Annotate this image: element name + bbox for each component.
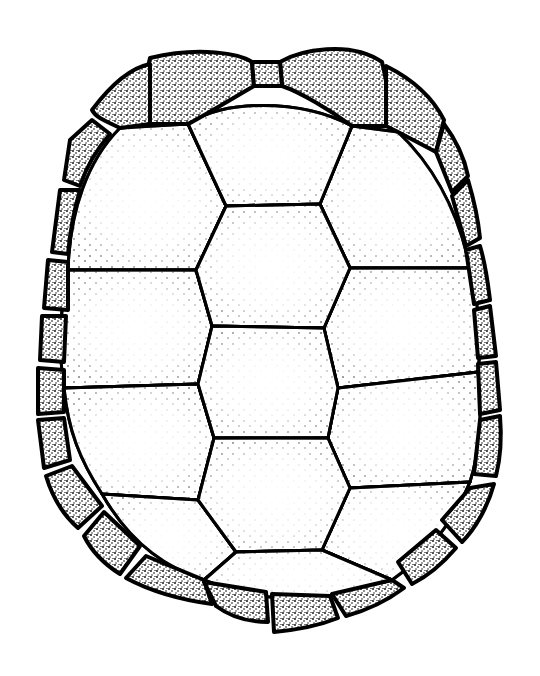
marginal-scute-9	[44, 260, 68, 310]
marginal-scute-15	[38, 418, 70, 468]
left-costal-scute-highlight-2	[61, 270, 212, 388]
marginal-scute-24	[272, 594, 338, 632]
marginal-scute-13	[38, 368, 64, 414]
turtle-carapace-figure	[0, 0, 540, 676]
right-costal-scute-highlight-2	[324, 268, 480, 388]
marginal-scute-6	[436, 124, 468, 192]
right-costal-scute-highlight-3	[328, 372, 480, 488]
carapace-illustration	[0, 0, 540, 676]
marginal-scute-14	[478, 362, 500, 414]
vertebral-scute-highlight-3	[198, 326, 338, 438]
marginal-scute-11	[40, 316, 66, 362]
marginal-scute-12	[474, 306, 496, 358]
nuchal-scute-1	[252, 62, 282, 86]
marginal-scute-16	[474, 416, 501, 476]
marginal-scute-3	[92, 64, 150, 128]
nuchal-scute	[252, 62, 282, 86]
